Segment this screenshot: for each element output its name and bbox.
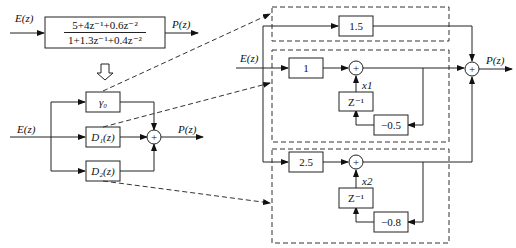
d2-label: D₂(z): [90, 165, 115, 178]
output-sum-sign: +: [469, 63, 475, 75]
section2-sum-sign: +: [353, 156, 359, 168]
parallel-output-label: P(z): [177, 123, 197, 136]
section1-delay: Z⁻¹: [348, 96, 364, 108]
denominator: 1+1.3z⁻¹+0.4z⁻²: [68, 34, 142, 46]
parallel-decomposition: E(z) γ₀ D₁(z) D₂(z) + P(z): [10, 92, 203, 181]
top-output-label: P(z): [171, 18, 191, 31]
gamma0-to-sum: [120, 102, 154, 130]
numerator: 5+4z⁻¹+0.6z⁻²: [72, 19, 138, 31]
projection-d2: [103, 181, 270, 203]
top-input-label: E(z): [14, 12, 34, 25]
section2-feedback: −0.8: [381, 216, 401, 228]
section1-sum-sign: +: [353, 62, 359, 74]
section1-state-label: x1: [361, 79, 372, 91]
section2-state-label: x2: [361, 175, 373, 187]
block-diagram: E(z) 5+4z⁻¹+0.6z⁻² 1+1.3z⁻¹+0.4z⁻² P(z) …: [0, 0, 516, 248]
expanded-output-label: P(z): [485, 54, 505, 67]
expanded-input-label: E(z): [239, 52, 259, 65]
expanded-realization: E(z) 1.5 1 + −0.5 Z⁻¹ x1 2.5 + −0.8: [236, 7, 512, 243]
section1-feedback-to-delay: [356, 110, 374, 125]
d1-label: D₁(z): [90, 131, 115, 144]
d2-to-sum: [120, 144, 154, 171]
section1-feedback-tap: [408, 68, 423, 125]
parallel-input-label: E(z): [16, 123, 36, 136]
gamma0-label: γ₀: [99, 96, 107, 108]
section1-input-gain: 1: [303, 62, 309, 74]
sum-sign: +: [151, 131, 157, 143]
section2-feedback-to-delay: [356, 207, 374, 222]
transfer-function-block: E(z) 5+4z⁻¹+0.6z⁻² 1+1.3z⁻¹+0.4z⁻² P(z): [10, 12, 198, 48]
section1-feedback: −0.5: [381, 119, 401, 131]
gain-value: 1.5: [349, 20, 363, 32]
section2-input-gain: 2.5: [299, 156, 313, 168]
section2-delay: Z⁻¹: [348, 192, 364, 204]
gain-to-sum: [373, 26, 472, 61]
section2-feedback-tap: [408, 162, 423, 222]
projection-d1: [103, 83, 270, 127]
transform-arrow-icon: [97, 64, 113, 80]
